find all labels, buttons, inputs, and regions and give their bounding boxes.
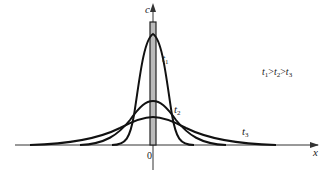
curve-label-t1: t1	[162, 52, 169, 66]
y-axis-label: c	[145, 3, 150, 15]
initial-pulse	[150, 22, 156, 145]
y-axis-arrow-icon	[150, 3, 156, 12]
curve-label-t2: t2	[174, 103, 181, 117]
diffusion-diagram: c x 0 t1 t2 t3 t1>t2>t3	[0, 0, 319, 172]
x-axis-label: x	[312, 146, 318, 158]
origin-label: 0	[147, 150, 152, 161]
curve-label-t3: t3	[242, 125, 249, 139]
time-order-annotation: t1>t2>t3	[262, 66, 293, 79]
